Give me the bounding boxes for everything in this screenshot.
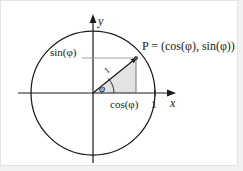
figure-container: P = (cos(φ), sin(φ)) sin(φ) cos(φ) 1 1 φ… <box>0 0 243 171</box>
x-axis-label: x <box>169 96 176 110</box>
unit-tick-label: 1 <box>151 98 157 110</box>
unit-circle-diagram: P = (cos(φ), sin(φ)) sin(φ) cos(φ) 1 1 φ… <box>0 0 243 171</box>
point-p-marker <box>134 56 138 60</box>
y-axis-label: y <box>97 14 104 28</box>
angle-label: φ <box>99 82 105 94</box>
cosine-label: cos(φ) <box>110 98 139 111</box>
point-p-label: P = (cos(φ), sin(φ)) <box>142 39 235 53</box>
sine-label: sin(φ) <box>50 46 77 59</box>
